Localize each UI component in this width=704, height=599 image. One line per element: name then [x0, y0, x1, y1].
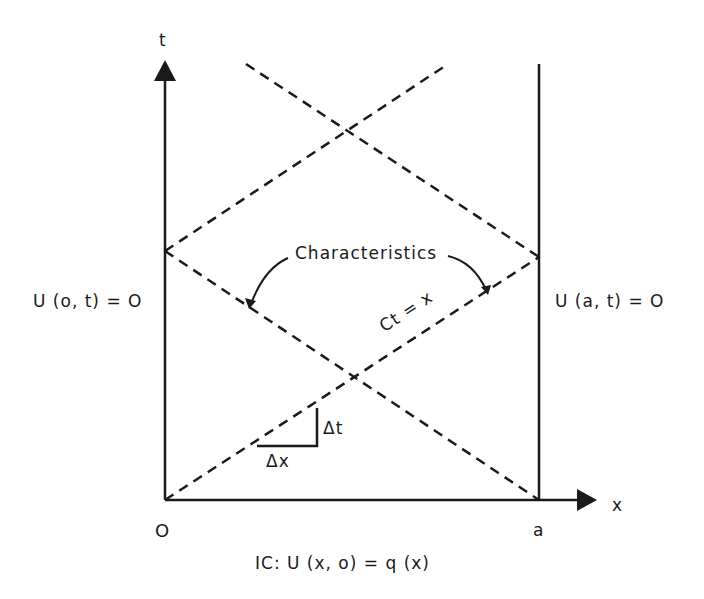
- delta-x-label: Δx: [266, 453, 290, 470]
- origin-label: O: [155, 522, 170, 540]
- x-axis-label: x: [612, 497, 623, 514]
- left-boundary-condition: U (o, t) = O: [33, 293, 142, 310]
- delta-t-label: Δt: [323, 420, 343, 437]
- right-pointer-arrow: [448, 256, 486, 290]
- left-pointer-arrow: [251, 258, 288, 304]
- characteristic-line-4: [246, 64, 539, 257]
- slope-triangle: [257, 408, 317, 446]
- a-label: a: [533, 522, 544, 539]
- right-boundary-condition: U (a, t) = O: [555, 293, 664, 310]
- t-axis-label: t: [159, 32, 167, 49]
- initial-condition: IC: U (x, o) = q (x): [255, 555, 430, 572]
- t-axis-arrowhead: [154, 60, 176, 81]
- characteristic-line-3: [165, 64, 448, 251]
- characteristics-label: Characteristics: [295, 245, 437, 262]
- x-axis-arrowhead: [577, 489, 597, 511]
